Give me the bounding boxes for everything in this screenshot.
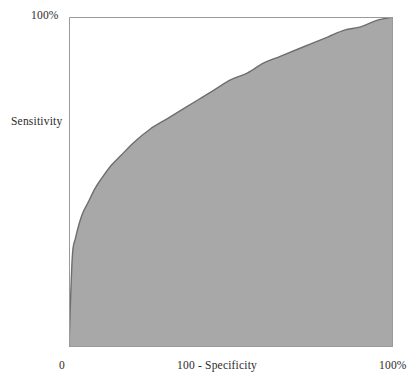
y-axis-max-tick-label: 100% <box>31 9 59 21</box>
curve-fill-group <box>69 17 393 347</box>
x-axis-min-tick-label: 0 <box>59 359 65 371</box>
x-axis-max-tick-label: 100% <box>379 359 407 371</box>
y-axis-title: Sensitivity <box>11 115 62 127</box>
roc-chart-page: 100% Sensitivity 0 100 - Specificity 100… <box>0 0 419 386</box>
plot-area <box>69 17 393 347</box>
x-axis-title: 100 - Specificity <box>177 359 257 371</box>
roc-curve-plot <box>69 17 393 347</box>
roc-curve-fill <box>69 17 393 347</box>
